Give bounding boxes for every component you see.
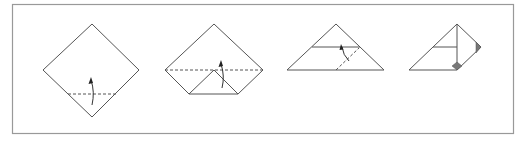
figure-frame [13,5,514,134]
origami-diagram [0,0,523,143]
